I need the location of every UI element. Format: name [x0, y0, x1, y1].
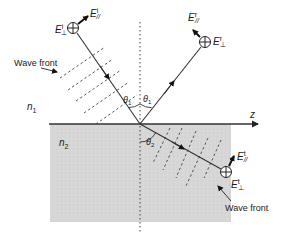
incident-par-field-arrow	[78, 16, 88, 24]
wavefront-incident-pointer	[41, 68, 57, 72]
transmitted-perp-label: Et⊥	[231, 178, 244, 191]
z-axis-label: z	[249, 109, 255, 120]
transmitted-par-label: Et//	[237, 150, 249, 163]
reflected-par-field-arrow	[193, 30, 200, 37]
incident-par-label: Ei//	[90, 7, 101, 20]
wavefront-transmitted-label: Wave front	[225, 203, 269, 213]
reflected-angle-label: θ1	[143, 94, 152, 105]
incident-ray	[77, 33, 140, 124]
incident-perp-label: Ei⊥	[55, 23, 67, 36]
diagram-canvas: z	[0, 0, 288, 243]
reflected-perp-field-icon	[200, 37, 211, 48]
reflected-ray	[140, 47, 201, 124]
incident-perp-field-icon	[68, 23, 79, 34]
transmitted-perp-field-icon	[221, 167, 232, 178]
medium-1-label: n1	[27, 101, 37, 114]
incident-angle-label: θ1	[123, 95, 132, 106]
wavefront-incident-label: Wave front	[14, 58, 58, 68]
reflected-perp-label: Er⊥	[213, 35, 226, 48]
reflected-par-label: Er//	[188, 11, 200, 24]
incident-wavefronts	[60, 47, 137, 124]
